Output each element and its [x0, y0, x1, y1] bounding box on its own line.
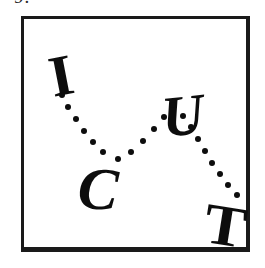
trail-dot — [217, 171, 224, 178]
trail-dot — [180, 113, 187, 120]
caption-fragment: 9. — [14, 0, 54, 6]
trail-dot — [202, 148, 209, 155]
trail-dot — [234, 192, 241, 199]
figure-canvas: 9. ICUT — [0, 0, 265, 268]
trail-dot — [188, 124, 195, 131]
figure-border-frame: ICUT — [21, 16, 250, 252]
trail-dot — [225, 182, 232, 189]
trail-u-to-t — [24, 19, 253, 255]
trail-dot — [209, 160, 216, 167]
trail-dot — [195, 136, 202, 143]
letter-trail-plot: ICUT — [24, 19, 253, 255]
